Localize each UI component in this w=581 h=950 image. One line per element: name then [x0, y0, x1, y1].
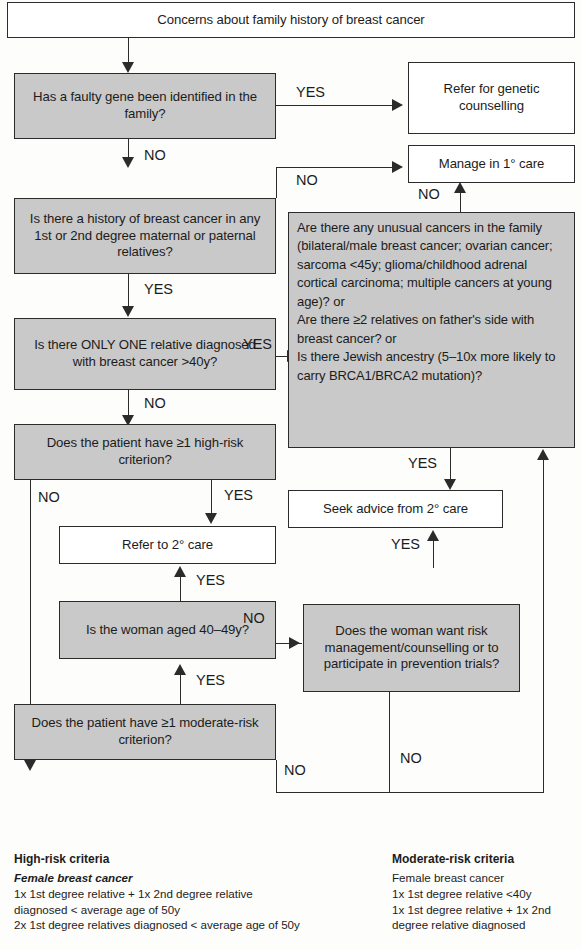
node-only-one-relative-label: Is there ONLY ONE relative diagnosed wit…	[21, 337, 269, 371]
legend-moderate-risk: Moderate-risk criteria Female breast can…	[392, 852, 577, 933]
node-refer-secondary-label: Refer to 2° care	[122, 537, 213, 554]
node-refer-genetic: Refer for genetic counselling	[408, 62, 575, 134]
arrowhead-unusual-no	[454, 182, 466, 193]
edge-woman-yes-up	[180, 574, 181, 601]
legend-high-risk-heading: High-risk criteria	[14, 852, 334, 868]
edge-label-want-no: NO	[400, 750, 422, 766]
node-refer-secondary: Refer to 2° care	[59, 526, 276, 564]
edge-moderate-no-drop	[276, 760, 277, 793]
legend-high-risk-line-1: diagnosed < average age of 50y	[14, 902, 334, 917]
node-unusual-cancers-label: Are there any unusual cancers in the fam…	[297, 219, 568, 385]
node-only-one-relative: Is there ONLY ONE relative diagnosed wit…	[14, 318, 276, 390]
edge-label-woman-yes-up: YES	[196, 572, 225, 588]
edge-right-riser	[543, 458, 544, 793]
legend-moderate-risk-line-0: 1x 1st degree relative <40y	[392, 886, 577, 901]
edge-want-yes-up	[433, 538, 434, 568]
edge-label-unusual-no: NO	[418, 186, 440, 202]
edge-label-history-yes: YES	[144, 281, 173, 297]
arrowhead-gene-no	[122, 157, 134, 168]
node-want-risk-management-label: Does the woman want risk management/coun…	[310, 623, 513, 674]
arrowhead-history-no	[392, 161, 403, 173]
arrowhead-woman-no	[289, 637, 300, 649]
edge-label-highrisk-no: NO	[38, 489, 60, 505]
node-history-breast-label: Is there a history of breast cancer in a…	[21, 211, 269, 262]
edge-label-seek-yes: YES	[391, 536, 420, 552]
edge-label-moderate-yes: YES	[196, 672, 225, 688]
arrowhead-highrisk-no	[24, 760, 36, 771]
edge-moderate-no	[276, 792, 391, 793]
node-start-label: Concerns about family history of breast …	[157, 12, 424, 29]
node-high-risk-question: Does the patient have ≥1 high-risk crite…	[14, 424, 276, 480]
edge-label-history-no: NO	[296, 172, 318, 188]
node-start: Concerns about family history of breast …	[7, 2, 575, 38]
edge-label-gene-no: NO	[144, 147, 166, 163]
edge-gene-yes	[276, 105, 394, 106]
arrowhead-start-to-gene	[122, 62, 134, 73]
edge-start-to-gene	[128, 38, 129, 64]
node-unusual-cancers: Are there any unusual cancers in the fam…	[288, 212, 575, 448]
legend-high-risk-line-0: 1x 1st degree relative + 1x 2nd degree r…	[14, 886, 334, 901]
node-want-risk-management: Does the woman want risk management/coun…	[303, 604, 520, 692]
node-seek-advice-label: Seek advice from 2° care	[323, 501, 468, 518]
legend-high-risk: High-risk criteria Female breast cancer …	[14, 852, 334, 933]
arrowhead-right-riser	[537, 449, 549, 460]
arrowhead-highrisk-yes	[205, 513, 217, 524]
node-woman-aged-label: Is the woman aged 40–49y?	[86, 622, 249, 639]
arrowhead-history-yes	[122, 306, 134, 317]
node-faulty-gene-label: Has a faulty gene been identified in the…	[21, 89, 269, 123]
legend-moderate-risk-heading: Moderate-risk criteria	[392, 852, 577, 868]
node-refer-genetic-label: Refer for genetic counselling	[415, 81, 568, 115]
legend-high-risk-subheading: Female breast cancer	[14, 870, 334, 885]
edge-label-woman-no: NO	[243, 610, 265, 626]
edge-history-no-riser	[276, 168, 277, 198]
edge-label-onlyone-no: NO	[144, 395, 166, 411]
legend-high-risk-line-2: 2x 1st degree relatives diagnosed < aver…	[14, 917, 334, 932]
node-moderate-risk-question: Does the patient have ≥1 moderate-risk c…	[14, 704, 276, 760]
arrowhead-want-yes-up	[427, 530, 439, 541]
node-manage-primary: Manage in 1° care	[408, 145, 575, 183]
edge-want-no-join	[389, 792, 544, 793]
arrowhead-woman-yes-up	[174, 566, 186, 577]
arrowhead-moderate-yes	[174, 664, 186, 675]
edge-label-onlyone-yes: YES	[243, 336, 272, 352]
edge-moderate-yes	[180, 672, 181, 704]
node-moderate-risk-question-label: Does the patient have ≥1 moderate-risk c…	[21, 715, 269, 749]
edge-label-gene-yes: YES	[296, 84, 325, 100]
node-manage-primary-label: Manage in 1° care	[439, 156, 544, 173]
edge-history-no	[276, 167, 394, 168]
legend-moderate-risk-line-2: degree relative diagnosed	[392, 917, 577, 932]
edge-want-no	[389, 692, 390, 793]
legend-moderate-risk-line-1: 1x 1st degree relative + 1x 2nd	[392, 902, 577, 917]
node-seek-advice: Seek advice from 2° care	[288, 490, 503, 528]
edge-label-moderate-no: NO	[284, 762, 306, 778]
node-history-breast: Is there a history of breast cancer in a…	[14, 198, 276, 274]
edge-label-highrisk-yes: YES	[224, 487, 253, 503]
legend-moderate-risk-subheading: Female breast cancer	[392, 870, 577, 885]
flowchart-page: Concerns about family history of breast …	[0, 0, 581, 950]
node-faulty-gene: Has a faulty gene been identified in the…	[14, 73, 276, 139]
arrowhead-unusual-yes	[444, 479, 456, 490]
edge-unusual-no	[460, 190, 461, 212]
node-high-risk-question-label: Does the patient have ≥1 high-risk crite…	[21, 435, 269, 469]
arrowhead-gene-yes	[392, 99, 403, 111]
edge-label-unusual-yes: YES	[408, 455, 437, 471]
